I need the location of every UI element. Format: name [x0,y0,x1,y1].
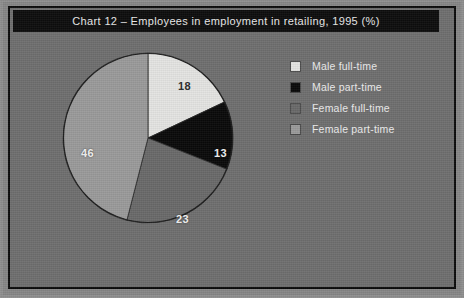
legend-swatch-male-part-time [290,82,301,93]
legend-label-female-part-time: Female part-time [312,123,395,135]
legend-swatch-female-part-time [290,124,301,135]
legend-item-female-full-time: Female full-time [290,100,440,116]
plot-area: 18 13 23 46 Male full-time Male part-tim… [10,34,454,286]
pie-svg [62,52,234,224]
legend-item-male-part-time: Male part-time [290,79,440,95]
chart-title-bar: Chart 12 – Employees in employment in re… [13,10,439,32]
legend-item-female-part-time: Female part-time [290,121,440,137]
chart-title: Chart 12 – Employees in employment in re… [72,15,379,27]
chart-legend: Male full-time Male part-time Female ful… [290,58,440,142]
legend-item-male-full-time: Male full-time [290,58,440,74]
pie-chart: 18 13 23 46 [62,52,234,224]
legend-label-male-full-time: Male full-time [312,60,377,72]
legend-swatch-female-full-time [290,103,301,114]
chart-page: Chart 12 – Employees in employment in re… [0,0,464,298]
legend-label-female-full-time: Female full-time [312,102,390,114]
legend-swatch-male-full-time [290,61,301,72]
legend-label-male-part-time: Male part-time [312,81,382,93]
